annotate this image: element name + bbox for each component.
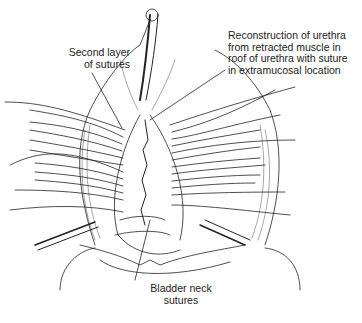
muscle-hatching — [82, 60, 270, 240]
label-bladder-neck-sutures: Bladder neck sutures — [140, 283, 222, 306]
label-line: Bladder neck — [140, 283, 222, 295]
label-line: roof of urethra with suture — [228, 53, 362, 65]
label-second-layer-of-sutures: Second layer of sutures — [48, 47, 130, 70]
lower-flap — [80, 245, 245, 265]
catheter-ring — [146, 9, 158, 21]
label-line: of sutures — [48, 59, 130, 71]
right-sutures — [170, 87, 295, 215]
midline-suture — [141, 120, 148, 225]
left-sutures — [5, 102, 125, 212]
label-line: in extramucosal location — [228, 65, 362, 77]
retractor-left — [35, 222, 95, 245]
label-line: sutures — [140, 295, 222, 307]
leader-reconstruction — [150, 70, 225, 120]
label-reconstruction-of-urethra: Reconstruction of urethra from retracted… — [228, 30, 362, 76]
label-line: Reconstruction of urethra — [228, 30, 362, 42]
label-line: Second layer — [48, 47, 130, 59]
